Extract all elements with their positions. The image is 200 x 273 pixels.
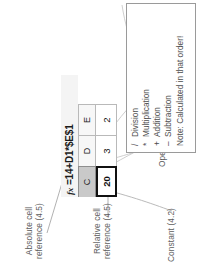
cell-d1[interactable]: 3: [96, 135, 117, 166]
cell-c1[interactable]: 20: [96, 166, 117, 197]
formula-text: =14+D1*$E$1: [64, 124, 75, 185]
legend-row-division: / Division: [130, 4, 141, 146]
rotated-figure-wrapper: Constant (4.2) Relative cell reference (…: [0, 0, 200, 273]
addition-label: Addition: [152, 107, 163, 137]
annotation-relative-reference-line1: Relative cell: [92, 195, 102, 267]
division-label: Division: [130, 108, 141, 137]
legend-row-addition: + Addition: [152, 4, 163, 146]
subtraction-label: Subtraction: [163, 95, 174, 137]
legend-row-multiplication: * Multiplication: [141, 4, 152, 146]
annotation-absolute-reference-line1: Absolute cell: [24, 195, 34, 267]
division-symbol: /: [130, 137, 141, 146]
addition-symbol: +: [152, 137, 163, 146]
subtraction-symbol: –: [163, 137, 174, 146]
operators-legend-box: / Division * Multiplication + Addition –…: [126, 3, 196, 153]
figure-canvas: Constant (4.2) Relative cell reference (…: [0, 0, 200, 273]
annotation-constant: Constant (4.2): [166, 203, 176, 267]
column-header-d[interactable]: D: [78, 135, 96, 166]
multiplication-symbol: *: [141, 137, 152, 146]
legend-row-subtraction: – Subtraction: [163, 4, 174, 146]
annotation-absolute-reference-line2: reference (4.5): [34, 195, 44, 267]
cell-e1[interactable]: 2: [96, 104, 117, 135]
spreadsheet-widget: fx =14+D1*$E$1 C D E 20 3 2: [61, 75, 117, 197]
formula-bar[interactable]: fx =14+D1*$E$1: [61, 75, 78, 197]
sheet-grid: C D E 20 3 2: [78, 75, 117, 197]
column-header-e[interactable]: E: [78, 104, 96, 135]
column-header-c[interactable]: C: [78, 166, 96, 197]
annotation-relative-reference-line2: reference (4.5): [102, 195, 112, 267]
fx-icon: fx: [65, 188, 75, 195]
legend-order-note: Note: Calculated in that order!: [175, 4, 186, 146]
multiplication-label: Multiplication: [141, 89, 152, 137]
